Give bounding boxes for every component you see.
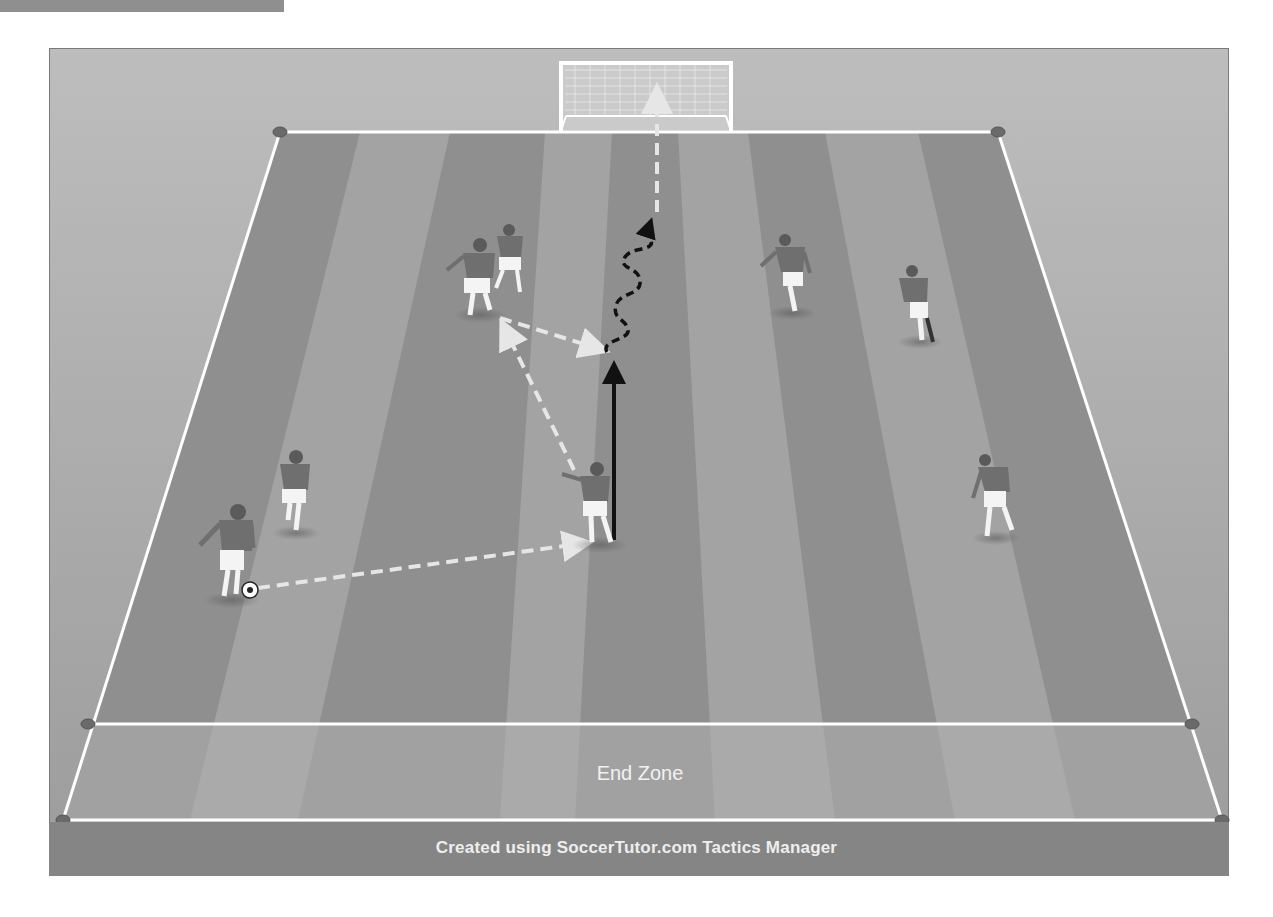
goal-icon — [559, 62, 733, 131]
footer-credit: Created using SoccerTutor.com Tactics Ma… — [0, 838, 1273, 858]
end-zone-label: End Zone — [590, 762, 690, 785]
